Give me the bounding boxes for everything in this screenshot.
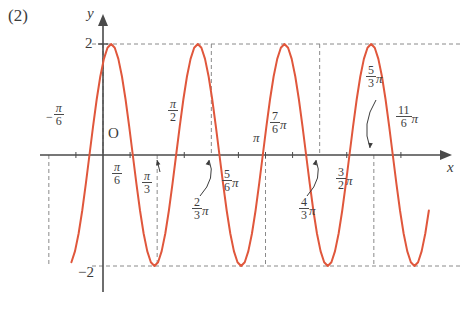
x-axis-label: x	[447, 160, 454, 175]
x-tick-label-seven-sixths-pi: 76π	[270, 112, 287, 138]
x-tick-label-pi-over-2: π2	[168, 100, 178, 126]
figure-canvas: (2) y x 2 −2 O −π6π6π3π223π56ππ76π43π32π…	[0, 0, 473, 311]
x-tick-label-four-thirds-pi: 43π	[299, 198, 316, 224]
x-tick-label-five-thirds-pi: 53π	[366, 66, 383, 92]
x-tick-label-neg-pi-over-6: −π6	[46, 104, 64, 130]
x-tick-label-pi-over-3: π3	[142, 172, 152, 198]
axes	[40, 14, 452, 292]
problem-number: (2)	[8, 7, 28, 24]
x-tick-label-pi: π	[253, 130, 260, 144]
graph-plot	[0, 0, 473, 311]
x-tick-label-two-thirds-pi: 23π	[192, 198, 209, 224]
origin-label: O	[108, 126, 119, 141]
y-tick-label-minus-2: −2	[78, 265, 94, 280]
x-tick-label-five-sixths-pi: 56π	[222, 170, 239, 196]
x-tick-label-three-halves-pi: 32π	[336, 168, 353, 194]
x-tick-label-pi-over-6: π6	[112, 163, 122, 189]
y-tick-label-2: 2	[85, 36, 93, 51]
x-tick-label-eleven-sixths-pi: 116π	[396, 106, 418, 132]
y-axis-label: y	[87, 6, 94, 21]
